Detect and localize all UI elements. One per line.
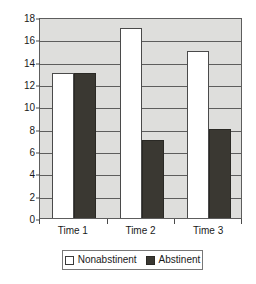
y-axis-tick-label: 12 [24,81,40,91]
y-axis-tick-label: 8 [29,126,40,136]
legend-label-abstinent: Abstinent [159,255,201,265]
y-axis-tick-label: 4 [29,170,40,180]
x-axis-tick-mark [107,219,108,224]
bar-abstinent-time-1 [74,73,96,218]
y-axis-tick-label: 16 [24,36,40,46]
legend-item-nonabstinent: Nonabstinent [65,255,137,265]
chart-legend: Nonabstinent Abstinent [62,250,203,270]
plot-area: 024681012141618 [39,18,242,219]
bar-abstinent-time-2 [142,140,164,218]
bar-chart: 024681012141618 Time 1Time 2Time 3 Nonab… [0,0,256,284]
y-axis-tick-label: 18 [24,14,40,24]
x-axis-tick-mark [39,219,40,224]
bar-nonabstinent-time-1 [52,73,74,218]
legend-item-abstinent: Abstinent [146,255,201,265]
y-axis-tick-label: 6 [29,148,40,158]
x-axis-label-time-1: Time 1 [58,226,88,236]
x-axis-label-time-2: Time 2 [125,226,155,236]
bars-layer [40,19,241,218]
y-axis-tick-label: 2 [29,193,40,203]
x-axis-label-time-3: Time 3 [193,226,223,236]
y-axis-tick-label: 14 [24,59,40,69]
legend-swatch-nonabstinent [65,256,74,265]
bar-nonabstinent-time-3 [187,51,209,219]
legend-swatch-abstinent [146,256,155,265]
x-axis-tick-mark [241,219,242,224]
bar-nonabstinent-time-2 [120,28,142,218]
bar-abstinent-time-3 [209,129,231,218]
y-axis-tick-label: 10 [24,103,40,113]
x-axis-labels: Time 1Time 2Time 3 [39,226,242,242]
legend-label-nonabstinent: Nonabstinent [78,255,137,265]
x-axis-tick-mark [174,219,175,224]
